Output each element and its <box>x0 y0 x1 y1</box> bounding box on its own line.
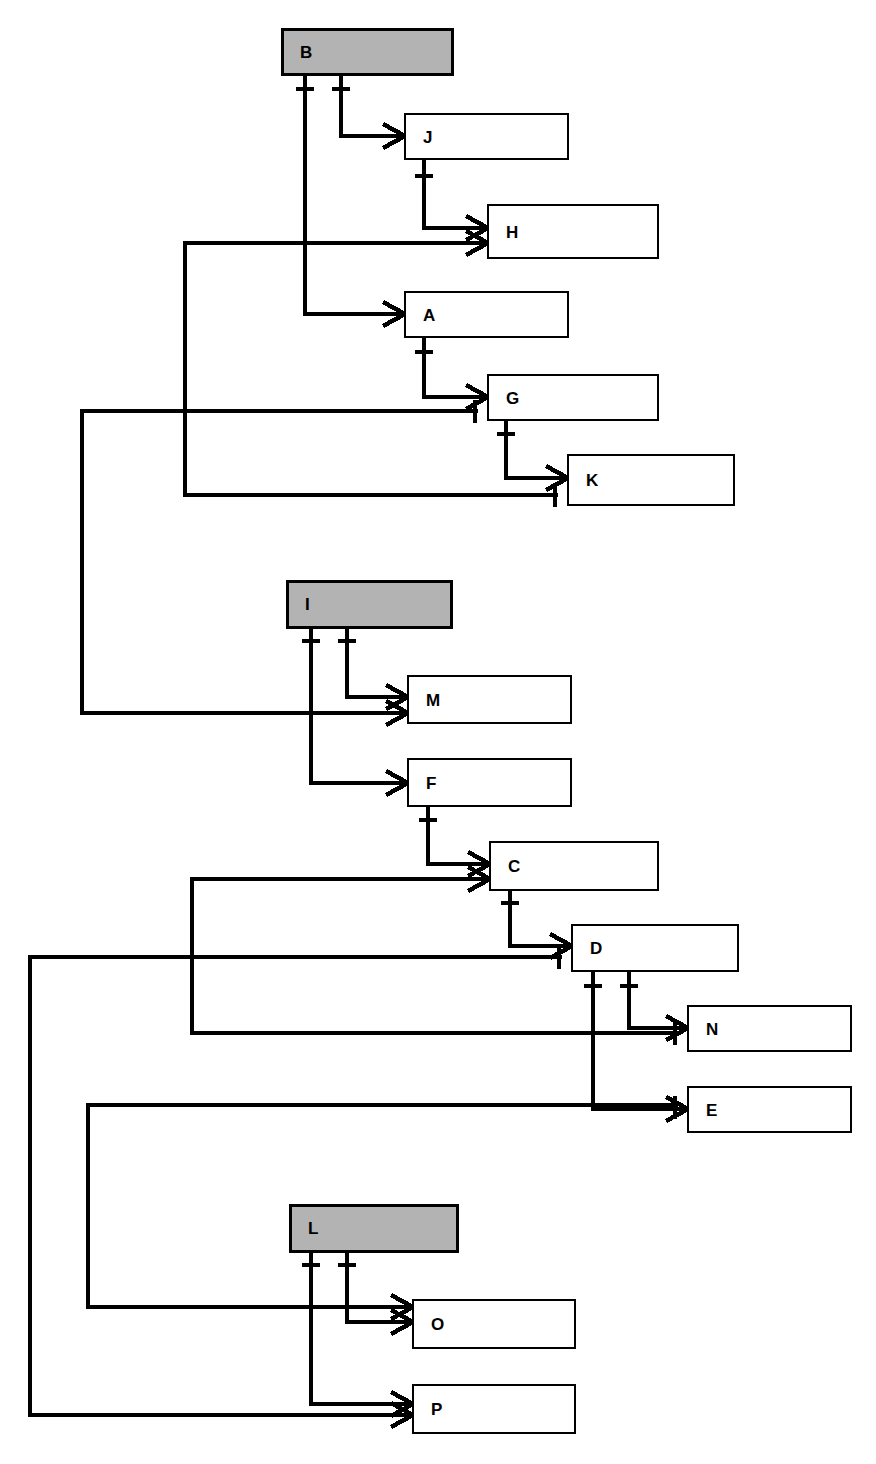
entity-box-D[interactable] <box>572 925 738 971</box>
entity-box-J[interactable] <box>405 114 568 159</box>
edge-G-to-H <box>185 243 558 495</box>
entity-box-L[interactable] <box>290 1205 457 1251</box>
edge-I-to-F <box>311 627 398 783</box>
edge-D-to-E <box>593 971 678 1109</box>
entity-box-K[interactable] <box>568 455 734 505</box>
entity-box-C[interactable] <box>490 842 658 890</box>
edge-K-to-G <box>82 411 478 713</box>
crowfoot-icon-H-lower <box>466 231 488 255</box>
edge-B-to-A <box>305 74 395 314</box>
entity-box-B[interactable] <box>282 29 452 74</box>
crowfoot-icon-G <box>466 385 488 409</box>
er-diagram-svg <box>0 0 876 1464</box>
crowfoot-icon-N <box>666 1016 688 1040</box>
crowfoot-icon-D <box>550 934 572 958</box>
crowfoot-icon-O-lower <box>391 1295 413 1319</box>
entity-box-H[interactable] <box>488 205 658 258</box>
entity-box-M[interactable] <box>408 676 571 723</box>
crowfoot-icon-J <box>383 124 405 148</box>
diagram-canvas: BJHAGKIMFCDNELOP <box>0 0 876 1464</box>
entity-box-A[interactable] <box>405 292 568 337</box>
entity-box-I[interactable] <box>287 581 451 627</box>
crowfoot-icon-C-lower <box>468 867 490 891</box>
entity-box-P[interactable] <box>413 1385 575 1433</box>
crowfoot-icon-M-lower <box>386 701 408 725</box>
entity-boxes <box>282 29 851 1433</box>
entity-box-N[interactable] <box>688 1006 851 1051</box>
edge-L-to-P <box>311 1251 403 1404</box>
entity-box-G[interactable] <box>488 375 658 420</box>
crowfoot-icon-E <box>666 1097 688 1121</box>
entity-box-F[interactable] <box>408 759 571 806</box>
entity-box-E[interactable] <box>688 1087 851 1132</box>
crowfoot-icon-A <box>383 302 405 326</box>
entity-box-O[interactable] <box>413 1300 575 1348</box>
crowfoot-icon-K <box>546 466 568 490</box>
crowfoot-icon-F <box>386 771 408 795</box>
